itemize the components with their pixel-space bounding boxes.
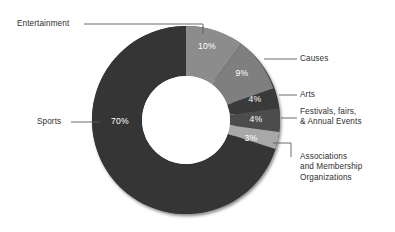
slice-value-festivals: 4%: [250, 114, 263, 124]
label-festivals: Festivals, fairs, & Annual Events: [300, 107, 392, 128]
label-arts: Arts: [300, 90, 315, 100]
label-causes-text: Causes: [300, 54, 328, 64]
slice-value-arts: 4%: [249, 94, 262, 104]
label-associations: Associations and Membership Organization…: [300, 152, 392, 183]
donut-hole: [142, 76, 230, 164]
label-entertainment-text: Entertainment: [17, 19, 69, 29]
label-festivals-line1: Festivals, fairs,: [300, 107, 392, 117]
label-festivals-line2: & Annual Events: [300, 117, 392, 127]
label-sports: Sports: [37, 117, 61, 127]
slice-value-causes: 9%: [236, 68, 249, 78]
label-associations-line3: Organizations: [300, 173, 392, 183]
label-sports-text: Sports: [37, 117, 61, 127]
label-associations-line2: and Membership: [300, 162, 392, 172]
label-entertainment: Entertainment: [17, 19, 69, 29]
slice-value-sports: 70%: [111, 116, 129, 126]
slice-value-entertainment: 10%: [198, 41, 216, 51]
label-associations-line1: Associations: [300, 152, 392, 162]
label-arts-text: Arts: [300, 90, 315, 100]
label-causes: Causes: [300, 54, 328, 64]
slice-value-associations: 3%: [245, 133, 258, 143]
donut-chart: 10% 9% 4% 4% 3% 70% Entertainment Causes…: [0, 0, 395, 232]
